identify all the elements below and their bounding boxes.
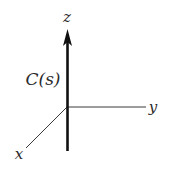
- coordinate-diagram: z y x C(s): [0, 0, 170, 169]
- curve-label: C(s): [26, 69, 61, 89]
- z-axis-label: z: [62, 8, 71, 26]
- x-axis-label: x: [15, 145, 24, 163]
- y-axis-label: y: [148, 98, 158, 116]
- x-axis-line: [26, 107, 67, 148]
